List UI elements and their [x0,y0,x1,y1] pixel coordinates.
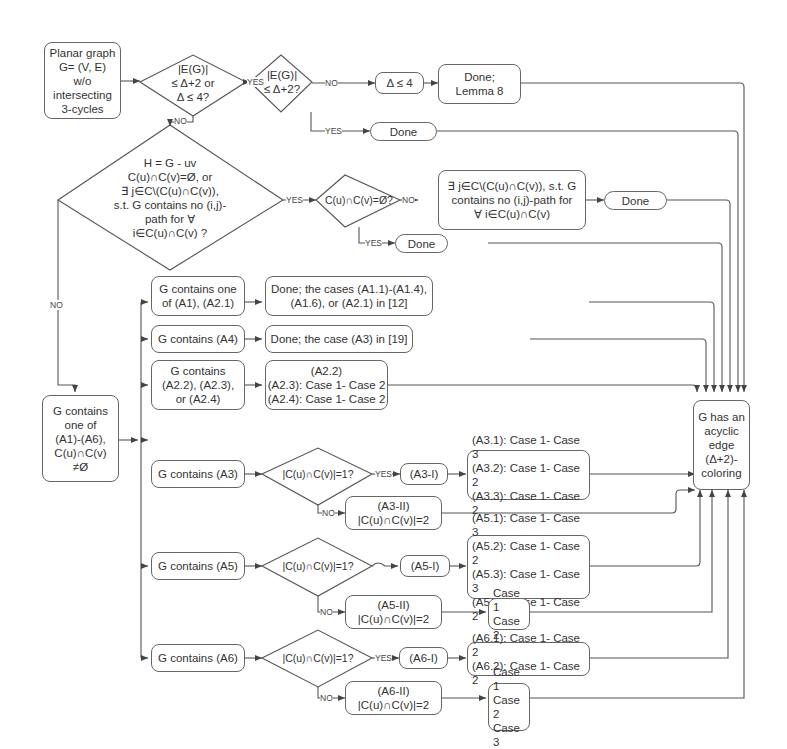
node-text: C(u)∩C(v)=Ø? [325,193,393,207]
node-text: path for ∀ [145,212,195,226]
a6-ii-cases-node: Case 1 Case 2 Case 3 [488,683,530,731]
a4-done-node: Done; the case (A3) in [19] [265,325,413,353]
decision-coloring-condition: H = G - uv C(u)∩C(v)=Ø, or ∃ j∈C\(C(u)∩C… [95,142,245,254]
node-text: (A3-II) [378,499,410,513]
node-text: ∃ j∈C\(C(u)∩C(v)), s.t. G [448,179,576,193]
decision-edges-bound: |E(G)| ≤ Δ+2? [258,66,306,98]
node-text: H = G - uv [144,156,197,170]
node-text: (A2.3): Case 1- Case 2 [268,378,386,392]
no-label: NO [320,693,333,703]
node-text: G has an [698,410,745,424]
node-text: (A5-I) [411,559,440,573]
a5-i-node: (A5-I) [400,555,450,577]
yes-label: YES [365,238,382,248]
a5-decision: |C(u)∩C(v)|=1? [272,558,364,574]
a6-i-node: (A6-I) [399,647,448,669]
node-text: G contains (A5) [158,559,238,573]
no-label: NO [320,607,333,617]
node-text: Case 1 [493,665,529,693]
a6-decision: |C(u)∩C(v)|=1? [272,650,364,666]
node-text: G contains (A4) [158,332,238,346]
node-text: contains no (i,j)-path for [452,193,573,207]
node-text: (A5.3): Case 1- Case 3 [472,567,589,595]
node-text: (A1)-(A6), [55,432,105,446]
node-text: (A3.2): Case 1- Case 2 [472,461,589,489]
node-text: (A1.6), or (A2.1) in [12] [291,296,408,310]
node-text: C(u)∩C(v) [54,446,106,460]
a3-cases-node: (A3.1): Case 1- Case 3 (A3.2): Case 1- C… [467,450,590,500]
a5-ii-cases-node: Case 1 Case 2 [488,598,530,630]
done-node: Done [395,234,448,253]
node-text: one of [65,418,97,432]
a2-cases-node: (A2.2) (A2.3): Case 1- Case 2 (A2.4): Ca… [265,360,388,410]
a5-ii-node: (A5-II) |C(u)∩C(v)|=2 [345,595,442,629]
node-text: (A2.2), (A2.3), [162,378,234,392]
node-text: Δ ≤ 4 [386,76,412,90]
node-text: ≠Ø [73,460,88,474]
contains-a1-node: G contains one of (A1), (A2.1) [151,276,245,316]
node-text: (A6-II) [378,684,410,698]
node-text: C(u)∩C(v)=Ø, or [128,170,213,184]
node-text: |C(u)∩C(v)|=1? [282,651,353,665]
contains-a4-node: G contains (A4) [151,325,245,353]
node-text: |C(u)∩C(v)|=2 [358,513,429,527]
node-text: ∀ i∈C(u)∩C(v) [474,207,550,221]
node-text: Done [390,125,418,139]
no-label: NO [174,116,187,126]
node-text: ≤ Δ+2? [264,82,300,96]
node-text: (A2.4): Case 1- Case 2 [268,392,386,406]
no-label: NO [325,78,338,88]
yes-label: YES [375,469,392,479]
node-text: Case 2 [493,693,529,721]
contains-a3-node: G contains (A3) [151,460,245,488]
node-text: (Δ+2)- [705,452,737,466]
node-text: |E(G)| [178,62,208,76]
no-label: NO [402,195,415,205]
yes-label: YES [286,195,303,205]
node-text: coloring [701,466,741,480]
a6-ii-node: (A6-II) |C(u)∩C(v)|=2 [345,681,442,715]
node-text: (A5.2): Case 1- Case 2 [472,539,589,567]
node-text: G contains [171,364,226,378]
a3-ii-node: (A3-II) |C(u)∩C(v)|=2 [345,496,442,530]
yes-label: YES [375,653,392,663]
decision-edges-or-delta: |E(G)| ≤ Δ+2 or Δ ≤ 4? [160,60,226,106]
no-label: NO [322,508,335,518]
contains-a6-node: G contains (A6) [151,644,245,672]
node-text: (A6.1): Case 1- Case 2 [472,631,589,659]
contains-a2-node: G contains (A2.2), (A2.3), or (A2.4) [151,360,245,410]
node-text: ∃ j∈C\(C(u)∩C(v)), [121,184,219,198]
node-text: Lemma 8 [456,84,504,98]
node-text: |C(u)∩C(v)|=2 [358,698,429,712]
node-text: (A6-I) [409,651,438,665]
node-text: Done; the case (A3) in [19] [271,332,408,346]
node-text: Planar graph [50,46,116,60]
node-text: |C(u)∩C(v)|=1? [282,467,353,481]
done-lemma8-node: Done; Lemma 8 [438,64,521,104]
node-text: ≤ Δ+2 or [171,76,214,90]
node-text: (A5.1): Case 1- Case 3 [472,511,589,539]
node-text: Done [622,194,650,208]
node-text: Done; [464,70,495,84]
start-node: Planar graph G= (V, E) w/o intersecting … [44,42,121,119]
node-text: G= (V, E) [59,60,106,74]
node-text: edge [709,438,735,452]
node-text: (A3-I) [410,467,439,481]
node-text: i∈C(u)∩C(v) ? [133,226,208,240]
node-text: intersecting [53,88,112,102]
node-text: s.t. G contains no (i,j)- [114,198,226,212]
no-label: NO [50,300,63,310]
done-node: Done [604,191,667,210]
a3-i-node: (A3-I) [400,463,448,485]
yes-label: YES [325,126,342,136]
node-text: |E(G)| [267,68,297,82]
contains-any-node: G contains one of (A1)-(A6), C(u)∩C(v) ≠… [42,395,119,482]
node-text: 3-cycles [61,102,103,116]
node-text: w/o [74,74,92,88]
node-text: |C(u)∩C(v)|=2 [358,612,429,626]
node-text: G contains (A6) [158,651,238,665]
node-text: Case 1 [493,586,529,614]
node-text: Case 3 [493,721,529,749]
node-text: |C(u)∩C(v)|=1? [282,559,353,573]
node-text: of (A1), (A2.1) [162,296,234,310]
